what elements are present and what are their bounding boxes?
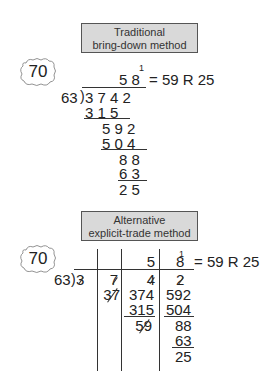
col4-row: 504	[166, 302, 191, 317]
quotient-ones: 8	[176, 254, 184, 269]
title-line-2: explicit-trade method	[82, 227, 197, 240]
column-separator	[159, 249, 160, 371]
step-row: 6 3	[119, 166, 140, 181]
col3-row: 59	[122, 318, 152, 333]
result-text: = 59 R 25	[194, 254, 259, 269]
estimate-value: 70	[19, 62, 57, 82]
col4-row: 88	[175, 318, 192, 333]
title-line-1: Alternative	[82, 214, 197, 227]
struck-digit: 7	[110, 272, 118, 287]
col4-row: 592	[166, 287, 191, 302]
struck-digit: 3	[76, 272, 84, 287]
divisor: 63	[54, 272, 71, 287]
dividend-hundreds: 7	[98, 272, 118, 287]
estimate-value: 70	[19, 249, 57, 269]
step-underline	[84, 118, 130, 119]
traded-value: 37	[98, 287, 120, 302]
division-bar	[74, 269, 194, 270]
step-underline	[101, 149, 147, 150]
step-row: 2 5	[119, 182, 140, 197]
division-bar	[82, 87, 146, 88]
dividend-thousands: 3	[76, 272, 84, 287]
result-text: = 59 R 25	[149, 72, 214, 87]
explicit-trade-method-title: Alternative explicit-trade method	[81, 211, 198, 241]
title-line-1: Traditional	[82, 26, 197, 39]
quotient-tens: 5	[124, 254, 155, 269]
title-line-2: bring-down method	[82, 39, 197, 52]
struck-digit: 4	[147, 272, 155, 287]
column-separator	[97, 249, 98, 371]
col4-row: 25	[175, 349, 192, 364]
step-row: 5 9 2	[102, 121, 135, 136]
struck-number: 59	[135, 318, 152, 333]
quotient: 5 8	[119, 72, 140, 87]
dividend-tens: 4	[122, 272, 155, 287]
dividend-ones: 2	[176, 272, 184, 287]
col3-row: 315	[122, 302, 154, 317]
division-bracket: )	[71, 272, 76, 286]
col4-row: 63	[175, 333, 192, 348]
col3-row: 374	[122, 287, 154, 302]
struck-number: 37	[103, 287, 120, 302]
dividend: 3 7 4 2	[85, 90, 131, 105]
division-bracket: )	[80, 89, 85, 103]
traditional-method-title: Traditional bring-down method	[81, 23, 198, 53]
struck-digit: 2	[176, 272, 184, 287]
divisor: 63	[61, 90, 78, 105]
